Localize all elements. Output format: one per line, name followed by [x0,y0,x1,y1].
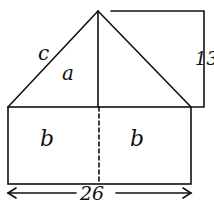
label-height: 13 [195,48,214,69]
height-bracket [111,11,204,107]
roof-right-edge [98,11,191,107]
house-diagram: c a b b 13 26 [0,0,214,207]
label-c: c [38,41,49,65]
roof-left-edge [8,11,98,107]
label-width: 26 [79,182,104,204]
label-b-left: b [40,126,54,151]
label-a: a [62,61,74,85]
label-b-right: b [130,126,144,151]
diagram-svg: c a b b 13 26 [0,0,214,207]
